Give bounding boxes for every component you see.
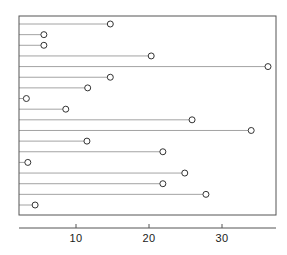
data-point-marker[interactable] bbox=[85, 85, 91, 91]
x-tick-label-20: 20 bbox=[142, 232, 155, 244]
data-point-marker[interactable] bbox=[84, 138, 90, 144]
data-point-marker[interactable] bbox=[203, 191, 209, 197]
plot-border bbox=[19, 16, 276, 215]
data-point-marker[interactable] bbox=[182, 170, 188, 176]
data-point-marker[interactable] bbox=[41, 42, 47, 48]
data-point-marker[interactable] bbox=[265, 64, 271, 70]
data-point-marker[interactable] bbox=[107, 74, 113, 80]
data-point-marker[interactable] bbox=[160, 149, 166, 155]
data-point-marker[interactable] bbox=[160, 181, 166, 187]
axis-group bbox=[19, 16, 276, 228]
chart-container: 10 20 30 bbox=[0, 0, 287, 255]
x-tick-label-30: 30 bbox=[215, 232, 228, 244]
plot-area bbox=[0, 0, 287, 255]
x-axis-ticks bbox=[76, 224, 222, 228]
data-point-marker[interactable] bbox=[23, 96, 29, 102]
data-point-marker[interactable] bbox=[148, 53, 154, 59]
leader-lines-group bbox=[19, 24, 268, 205]
data-point-marker[interactable] bbox=[248, 127, 254, 133]
data-point-marker[interactable] bbox=[32, 202, 38, 208]
data-point-marker[interactable] bbox=[63, 106, 69, 112]
data-point-marker[interactable] bbox=[25, 159, 31, 165]
data-markers-group bbox=[23, 21, 271, 208]
data-point-marker[interactable] bbox=[189, 117, 195, 123]
data-point-marker[interactable] bbox=[41, 32, 47, 38]
data-point-marker[interactable] bbox=[107, 21, 113, 27]
x-tick-label-10: 10 bbox=[69, 232, 82, 244]
